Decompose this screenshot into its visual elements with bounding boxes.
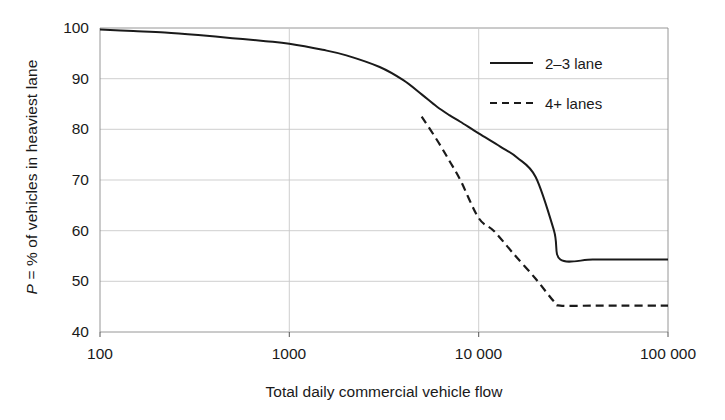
xtick-label: 10 000 bbox=[428, 345, 529, 363]
ytick-label: 50 bbox=[55, 272, 89, 290]
chart-figure: 100 90 80 70 60 50 40 100 1000 10 000 10… bbox=[0, 0, 725, 420]
ytick-label: 80 bbox=[55, 120, 89, 138]
series-line-dashed bbox=[422, 117, 668, 306]
xaxis-title: Total daily commercial vehicle flow bbox=[100, 383, 668, 401]
ytick-label: 60 bbox=[55, 222, 89, 240]
legend-swatches bbox=[490, 63, 533, 103]
ytick-label: 90 bbox=[55, 70, 89, 88]
ytick-label: 70 bbox=[55, 171, 89, 189]
gridlines-horizontal bbox=[100, 28, 668, 332]
ytick-label: 40 bbox=[55, 323, 89, 341]
legend-label-solid: 2–3 lane bbox=[545, 55, 603, 72]
xtick-label: 100 000 bbox=[610, 345, 725, 363]
ytick-label: 100 bbox=[55, 19, 89, 37]
xaxis-title-text: Total daily commercial vehicle flow bbox=[266, 383, 503, 400]
yaxis-title-symbol: P bbox=[23, 284, 40, 294]
yaxis-title: P = % of vehicles in heaviest lane bbox=[23, 27, 41, 327]
legend-label-dashed: 4+ lanes bbox=[545, 95, 602, 112]
yaxis-title-text: = % of vehicles in heaviest lane bbox=[23, 60, 40, 284]
xaxis-ticks bbox=[100, 332, 668, 337]
xtick-label: 1000 bbox=[244, 345, 334, 363]
xtick-label: 100 bbox=[60, 345, 140, 363]
